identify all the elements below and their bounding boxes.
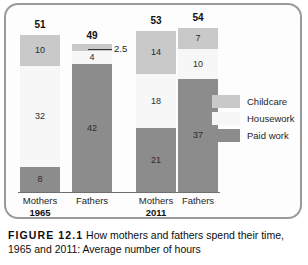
segment-paid-work: 42 bbox=[72, 64, 112, 192]
group-label-2011: 2011 bbox=[108, 207, 204, 218]
tick-label-fathers-1965: Fathers bbox=[64, 195, 120, 206]
legend-item-paid-work[interactable]: Paid work bbox=[212, 127, 295, 144]
figure-12-1: 51 49 53 54 10 32 8 4 42 2.5 14 18 bbox=[0, 0, 308, 265]
figure-caption-tag: FIGURE 12.1 bbox=[8, 229, 83, 241]
bar-total-mothers-1965: 51 bbox=[20, 19, 60, 30]
segment-paid-work: 8 bbox=[20, 167, 60, 192]
callout-leader-line bbox=[88, 49, 112, 50]
segment-paid-work: 21 bbox=[136, 128, 176, 192]
x-axis-line bbox=[18, 192, 220, 193]
legend-item-housework[interactable]: Housework bbox=[212, 110, 295, 127]
bar-total-fathers-2011: 54 bbox=[178, 12, 218, 23]
bar-total-mothers-2011: 53 bbox=[136, 15, 176, 26]
callout-label-2point5: 2.5 bbox=[114, 43, 127, 54]
segment-housework: 10 bbox=[178, 49, 218, 79]
plot-area: 51 49 53 54 10 32 8 4 42 2.5 14 18 bbox=[6, 5, 300, 217]
segment-housework: 4 bbox=[72, 51, 112, 64]
tick-label-mothers-1965: Mothers bbox=[12, 195, 68, 206]
segment-housework: 32 bbox=[20, 66, 60, 167]
bar-fathers-1965[interactable]: 4 42 bbox=[72, 44, 112, 192]
legend-label-housework: Housework bbox=[247, 113, 295, 124]
segment-childcare: 10 bbox=[20, 35, 60, 66]
segment-childcare: 14 bbox=[136, 31, 176, 74]
legend-label-childcare: Childcare bbox=[247, 96, 287, 107]
group-label-1965: 1965 bbox=[4, 207, 88, 218]
legend-item-childcare[interactable]: Childcare bbox=[212, 93, 295, 110]
segment-housework: 18 bbox=[136, 74, 176, 128]
tick-label-fathers-2011: Fathers bbox=[170, 195, 226, 206]
legend-label-paid-work: Paid work bbox=[247, 130, 289, 141]
legend-swatch-housework bbox=[212, 112, 240, 125]
segment-childcare: 7 bbox=[178, 28, 218, 49]
figure-caption: FIGURE 12.1 How mothers and fathers spen… bbox=[8, 228, 302, 256]
legend-swatch-paid-work bbox=[212, 129, 240, 142]
bar-mothers-1965[interactable]: 10 32 8 bbox=[20, 35, 60, 192]
legend: Childcare Housework Paid work bbox=[212, 93, 295, 144]
legend-swatch-childcare bbox=[212, 95, 240, 108]
chart-frame: 51 49 53 54 10 32 8 4 42 2.5 14 18 bbox=[4, 3, 302, 219]
bar-total-fathers-1965: 49 bbox=[72, 30, 112, 41]
bar-mothers-2011[interactable]: 14 18 21 bbox=[136, 31, 176, 192]
